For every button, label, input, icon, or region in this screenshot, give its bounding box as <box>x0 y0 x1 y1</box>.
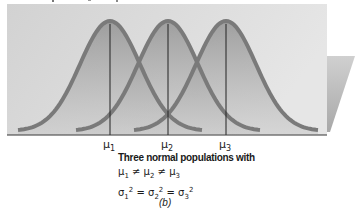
variance-equality: σ12 = σ22 = σ32 <box>118 183 255 204</box>
mean-inequality: μ1 ≠ μ2 ≠ μ3 <box>118 165 255 183</box>
normal-populations-figure: μ1 μ2 μ3 Three normal populations with μ… <box>0 0 357 218</box>
cropped-header-text <box>52 0 118 2</box>
caption-title: Three normal populations with <box>118 151 255 165</box>
side-plane <box>327 56 355 132</box>
mean-label-1: μ1 <box>103 138 115 153</box>
figure-caption: Three normal populations with μ1 ≠ μ2 ≠ … <box>118 151 255 204</box>
panel-label: (b) <box>159 197 171 208</box>
